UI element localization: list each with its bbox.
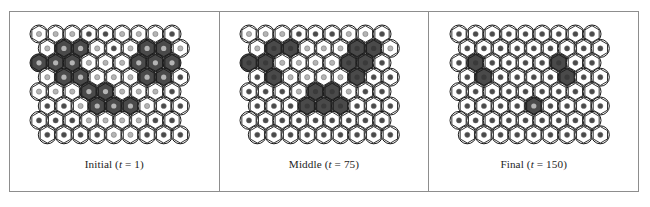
cell-state-dot (481, 75, 486, 80)
cell-state-dot (354, 46, 359, 51)
cell-state-dot (523, 60, 528, 65)
cell-state-dot (581, 103, 586, 108)
lattice-cell-empty (315, 126, 333, 144)
cell-state-dot (498, 103, 503, 108)
cell-state-dot (539, 118, 544, 123)
cell-state-dot (37, 89, 42, 94)
cell-state-dot (514, 132, 519, 137)
cell-state-dot (539, 89, 544, 94)
cell-state-dot (313, 89, 318, 94)
cell-state-dot (53, 31, 58, 36)
cell-state-dot (572, 60, 577, 65)
cell-state-dot (136, 89, 141, 94)
cell-state-dot (246, 60, 251, 65)
cell-state-dot (153, 31, 158, 36)
cell-state-dot (330, 89, 335, 94)
caption-prefix-middle: Middle ( (289, 158, 329, 170)
cell-state-dot (548, 132, 553, 137)
cell-state-dot (489, 31, 494, 36)
lattice-cell-empty (122, 126, 140, 144)
cell-state-dot (321, 132, 326, 137)
cell-state-dot (456, 89, 461, 94)
cell-state-dot (514, 46, 519, 51)
cell-state-dot (95, 46, 100, 51)
cell-state-dot (371, 132, 376, 137)
lattice-svg-initial (28, 23, 200, 147)
cell-state-dot (506, 89, 511, 94)
cell-state-dot (371, 75, 376, 80)
lattice-cell-empty (331, 126, 349, 144)
cell-state-dot (53, 89, 58, 94)
cell-state-dot (145, 46, 150, 51)
lattice-final (429, 12, 638, 158)
cell-state-dot (354, 132, 359, 137)
cell-state-dot (589, 118, 594, 123)
cell-state-dot (112, 75, 117, 80)
cell-state-dot (473, 89, 478, 94)
cell-state-dot (464, 75, 469, 80)
cell-state-dot (263, 31, 268, 36)
cell-state-dot (170, 118, 175, 123)
cell-state-dot (572, 118, 577, 123)
cell-state-dot (313, 31, 318, 36)
cell-state-dot (531, 103, 536, 108)
cell-state-dot (271, 132, 276, 137)
cell-state-dot (338, 103, 343, 108)
cell-state-dot (70, 89, 75, 94)
cell-state-dot (338, 46, 343, 51)
cell-state-dot (263, 60, 268, 65)
lattice-cell-empty (138, 126, 156, 144)
cell-state-dot (456, 31, 461, 36)
cell-state-dot (255, 132, 260, 137)
cell-state-dot (45, 132, 50, 137)
panel-caption-initial: Initial (t = 1) (85, 159, 144, 170)
cell-state-dot (379, 60, 384, 65)
cell-state-dot (456, 60, 461, 65)
cell-state-dot (45, 75, 50, 80)
figure-frame: Initial (t = 1) Middle (t = 75) Final (t… (9, 11, 639, 192)
cell-state-dot (313, 118, 318, 123)
cell-state-dot (379, 118, 384, 123)
cell-state-dot (78, 132, 83, 137)
cell-state-dot (128, 75, 133, 80)
cell-state-dot (473, 60, 478, 65)
lattice-cell-empty (475, 126, 493, 144)
cell-state-dot (95, 132, 100, 137)
cell-state-dot (280, 60, 285, 65)
cell-state-dot (388, 46, 393, 51)
cell-state-dot (548, 46, 553, 51)
cell-state-dot (70, 31, 75, 36)
cell-state-dot (45, 103, 50, 108)
cell-state-dot (78, 75, 83, 80)
cell-state-dot (388, 132, 393, 137)
cell-state-dot (53, 60, 58, 65)
panel-caption-final: Final (t = 150) (500, 159, 567, 170)
cell-state-dot (288, 46, 293, 51)
lattice-cell-empty (591, 126, 609, 144)
cell-state-dot (548, 103, 553, 108)
cell-state-dot (539, 31, 544, 36)
lattice-cell-empty (248, 126, 266, 144)
cell-state-dot (313, 60, 318, 65)
cell-state-dot (330, 118, 335, 123)
cell-state-dot (296, 89, 301, 94)
lattice-cell-empty (558, 126, 576, 144)
cell-state-dot (95, 103, 100, 108)
caption-suffix-initial: = 1) (122, 158, 144, 170)
caption-prefix-final: Final ( (500, 158, 530, 170)
cell-state-dot (456, 118, 461, 123)
cell-state-dot (271, 103, 276, 108)
cell-state-dot (514, 75, 519, 80)
cell-state-dot (498, 75, 503, 80)
lattice-cell-empty (155, 126, 173, 144)
cell-state-dot (498, 46, 503, 51)
cell-state-dot (78, 46, 83, 51)
cell-state-dot (473, 118, 478, 123)
cell-state-dot (338, 132, 343, 137)
lattice-cell-empty (298, 126, 316, 144)
cell-state-dot (37, 31, 42, 36)
cell-state-dot (564, 46, 569, 51)
cell-state-dot (95, 75, 100, 80)
cell-state-dot (346, 60, 351, 65)
cell-state-dot (103, 31, 108, 36)
